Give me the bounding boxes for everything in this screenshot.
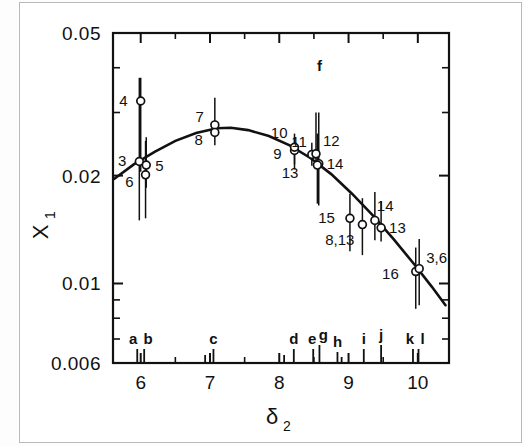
axis-letter-label: k <box>406 330 415 347</box>
axis-letter-label: b <box>144 330 153 347</box>
axis-letter-label: g <box>319 326 328 343</box>
plot-frame-rect <box>113 33 449 363</box>
data-point-marker <box>313 161 321 169</box>
axis-letter-label: a <box>129 330 138 347</box>
data-point-marker <box>137 97 145 105</box>
y-tick-label: 0.01 <box>62 273 101 294</box>
data-point-label: 3,6 <box>426 249 447 266</box>
data-point-label: 11 <box>291 133 307 150</box>
axis-letter-label: l <box>420 330 424 347</box>
x-axis-title-text: δ <box>266 404 278 429</box>
data-point-label: 15 <box>318 209 335 226</box>
axis-letter-marks: abcdeghijkl <box>129 326 425 363</box>
y-axis-tick-labels: 0.050.020.010.006 <box>51 23 101 374</box>
figure-page: 0.050.020.010.006 678910 abcdeghijkl 435… <box>0 0 524 446</box>
x-tick-label: 8 <box>274 372 285 393</box>
plot-frame <box>113 33 449 363</box>
data-point-marker <box>211 129 219 137</box>
data-point-marker <box>415 265 423 273</box>
axis-letter-label: d <box>289 330 298 347</box>
data-point-marker <box>371 216 379 224</box>
y-tick-label: 0.02 <box>62 166 101 187</box>
y-axis-ticks <box>113 33 449 363</box>
x-tick-label: 6 <box>135 372 146 393</box>
data-point-label: 6 <box>125 173 133 190</box>
y-axis-title-subscript: 1 <box>42 211 58 219</box>
data-point-label: 4 <box>119 92 127 109</box>
axis-letter-label: h <box>333 333 342 350</box>
data-point-label: 14 <box>377 197 394 214</box>
scatter-plot-figure: 0.050.020.010.006 678910 abcdeghijkl 435… <box>0 0 524 446</box>
data-point-marker <box>377 224 385 232</box>
data-point-marker <box>142 161 150 169</box>
y-axis-title: X 1 <box>28 211 58 239</box>
data-point-label: 8 <box>194 131 202 148</box>
data-point-labels: 43567891011121413158,131413163,6 <box>118 92 447 282</box>
data-point-label: 10 <box>271 124 288 141</box>
top-annotation-label: f <box>317 57 323 74</box>
data-point-label: 12 <box>323 132 340 149</box>
error-bars <box>139 78 419 309</box>
y-axis-title-text: X <box>28 224 53 239</box>
x-axis-title-subscript: 2 <box>283 418 291 434</box>
y-tick-label: 0.05 <box>62 23 101 44</box>
data-point-label: 5 <box>155 157 163 174</box>
data-point-marker <box>359 221 367 229</box>
data-point-label: 9 <box>273 145 281 162</box>
data-point-label: 3 <box>118 152 126 169</box>
x-axis-tick-labels: 678910 <box>135 372 428 393</box>
data-point-label: 8,13 <box>325 231 354 248</box>
data-point-label: 13 <box>282 164 299 181</box>
axis-letter-label: c <box>209 330 217 347</box>
top-annotation-f: f <box>317 57 323 74</box>
data-point-marker <box>211 121 219 129</box>
axis-letter-label: e <box>308 330 316 347</box>
x-tick-label: 7 <box>205 372 216 393</box>
x-axis-title: δ 2 <box>266 404 291 434</box>
data-point-marker <box>312 150 320 158</box>
x-tick-label: 9 <box>343 372 354 393</box>
data-point-marker <box>346 214 354 222</box>
y-tick-label: 0.006 <box>51 353 101 374</box>
data-point-label: 16 <box>382 265 399 282</box>
data-point-label: 7 <box>195 108 203 125</box>
x-tick-label: 10 <box>407 372 428 393</box>
data-point-marker <box>142 171 150 179</box>
axis-letter-label: i <box>362 330 366 347</box>
data-point-label: 13 <box>389 219 406 236</box>
data-point-label: 14 <box>327 155 344 172</box>
axis-letter-label: j <box>378 326 383 343</box>
